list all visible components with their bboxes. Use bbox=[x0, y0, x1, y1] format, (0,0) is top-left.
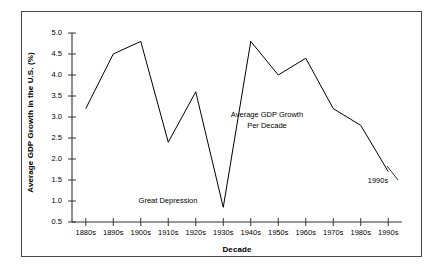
annotation-series-label-line1: Average GDP Growth bbox=[212, 110, 322, 119]
x-tick-label: 1990s bbox=[371, 228, 405, 237]
y-tick-label: 4.5 bbox=[38, 49, 62, 58]
y-tick-label: 1.5 bbox=[38, 175, 62, 184]
y-tick-label: 3.0 bbox=[38, 112, 62, 121]
annotation-great-depression: Great Depression bbox=[123, 196, 213, 205]
y-axis-title: Average GDP Growth in the U.S. (%) bbox=[26, 38, 35, 208]
y-tick-label: 1.0 bbox=[38, 196, 62, 205]
y-tick-label: 5.0 bbox=[38, 28, 62, 37]
y-tick-label: 4.0 bbox=[38, 70, 62, 79]
y-tick-label: 3.5 bbox=[38, 91, 62, 100]
annotation-series-label-line2: Per Decade bbox=[212, 121, 322, 130]
annotation-last-point-1990s: 1990s bbox=[358, 176, 398, 185]
y-tick-label: 2.5 bbox=[38, 133, 62, 142]
chart-figure: Average GDP Growth in the U.S. (%) Decad… bbox=[0, 0, 445, 278]
x-axis-title: Decade bbox=[72, 245, 402, 254]
y-tick-label: 0.5 bbox=[38, 217, 62, 226]
y-tick-label: 2.0 bbox=[38, 154, 62, 163]
